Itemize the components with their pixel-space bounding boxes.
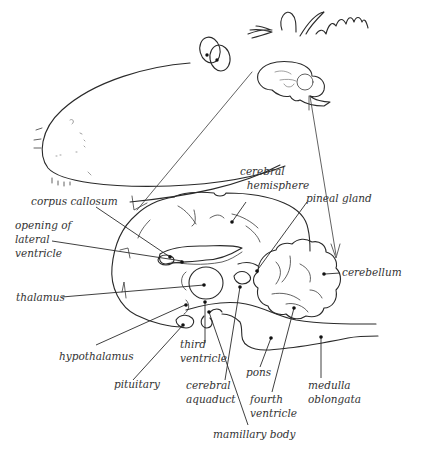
label-opening-of-lateral-ventricle: opening of lateral ventricle bbox=[15, 218, 71, 260]
label-cerebral-hemisphere: cerebral hemisphere bbox=[240, 164, 309, 192]
label-fourth-ventricle: fourth ventricle bbox=[250, 392, 297, 420]
animal-head-illustration bbox=[34, 12, 368, 186]
label-pineal-gland: pineal gland bbox=[306, 191, 372, 205]
label-mamillary-body: mamillary body bbox=[213, 427, 296, 441]
label-cerebellum: cerebellum bbox=[342, 265, 402, 279]
label-third-ventricle: third ventricle bbox=[180, 337, 227, 365]
label-corpus-callosum: corpus callosum bbox=[31, 194, 118, 208]
label-pons: pons bbox=[246, 365, 271, 379]
label-medulla-oblongata: medulla oblongata bbox=[308, 378, 361, 406]
zoom-line-right bbox=[310, 96, 340, 258]
label-cerebral-aquaduct: cerebral aquaduct bbox=[186, 378, 236, 406]
label-pituitary: pituitary bbox=[114, 377, 160, 391]
zoom-line-left bbox=[132, 72, 252, 210]
label-thalamus: thalamus bbox=[16, 290, 65, 304]
label-hypothalamus: hypothalamus bbox=[59, 349, 134, 363]
